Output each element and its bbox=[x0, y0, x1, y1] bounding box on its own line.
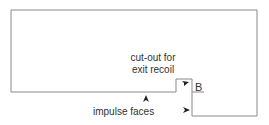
cutout-label-line1: cut-out for bbox=[118, 52, 188, 64]
point-b-label: B bbox=[195, 81, 202, 93]
arrow-up-icon bbox=[143, 95, 149, 102]
arrow-diagonal-icon bbox=[182, 81, 189, 86]
arrow-right-icon bbox=[183, 107, 190, 113]
cutout-label: cut-out for exit recoil bbox=[118, 52, 188, 76]
cutout-label-line2: exit recoil bbox=[118, 64, 188, 76]
impulse-faces-label: impulse faces bbox=[93, 106, 154, 118]
